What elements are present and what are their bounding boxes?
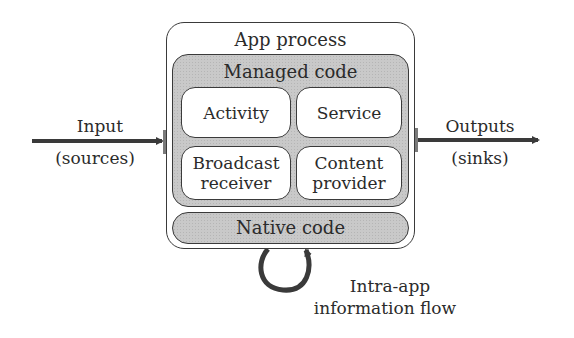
loop-sublabel: information flow [300, 298, 470, 318]
content-provider-label-line2: provider [312, 173, 385, 193]
content-provider-box: Content provider [296, 146, 402, 200]
loop-arrow [261, 249, 309, 290]
output-label: Outputs [430, 116, 530, 136]
app-process-title: App process [166, 29, 415, 50]
native-code-title: Native code [172, 217, 409, 238]
output-sublabel: (sinks) [430, 148, 530, 168]
loop-label: Intra-app [310, 276, 470, 296]
activity-label: Activity [203, 103, 269, 123]
service-label: Service [317, 103, 381, 123]
service-box: Service [296, 87, 402, 138]
managed-code-title: Managed code [172, 61, 409, 82]
broadcast-receiver-box: Broadcast receiver [181, 146, 291, 200]
input-label: Input [50, 116, 150, 136]
broadcast-label-line2: receiver [192, 173, 279, 193]
broadcast-label-line1: Broadcast [192, 153, 279, 173]
content-provider-label-line1: Content [312, 153, 385, 173]
input-sublabel: (sources) [40, 148, 150, 168]
activity-box: Activity [181, 87, 291, 138]
